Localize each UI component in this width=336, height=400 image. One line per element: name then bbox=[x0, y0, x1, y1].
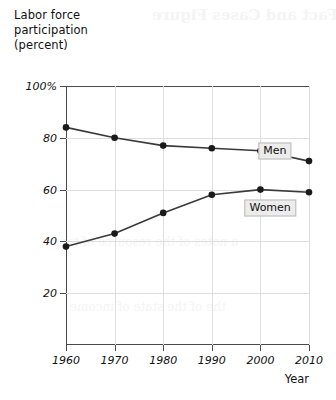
x-axis-tick-label: 1970 bbox=[101, 354, 129, 367]
data-point-men bbox=[209, 145, 216, 152]
x-axis-tick bbox=[260, 345, 261, 351]
data-point-women bbox=[209, 192, 216, 199]
x-axis-tick bbox=[309, 345, 310, 351]
y-axis-title: Labor force participation (percent) bbox=[14, 8, 88, 53]
data-point-men bbox=[63, 124, 70, 131]
y-axis-tick-label: 60 bbox=[43, 183, 57, 196]
x-axis-tick-label: 2000 bbox=[246, 354, 274, 367]
data-point-men bbox=[111, 135, 118, 142]
bleed-through-text-top: Program in Cases Fact and Cases Figure bbox=[152, 6, 336, 24]
x-axis-tick bbox=[163, 345, 164, 351]
x-axis-tick-label: 1960 bbox=[52, 354, 80, 367]
y-axis-title-line-2: participation bbox=[14, 23, 88, 38]
y-axis-tick-label: 20 bbox=[43, 287, 57, 300]
x-axis-title: Year bbox=[285, 372, 309, 386]
x-axis-tick-label: 2010 bbox=[295, 354, 323, 367]
series-label-women: Women bbox=[244, 199, 295, 216]
x-axis-tick bbox=[212, 345, 213, 351]
y-axis-title-line-1: Labor force bbox=[14, 8, 88, 23]
x-axis-tick bbox=[66, 345, 67, 351]
plot-area: Year 100%8060402019601970198019902000201… bbox=[66, 86, 309, 345]
y-axis-tick-label: 80 bbox=[43, 131, 57, 144]
gridline-vertical bbox=[309, 86, 310, 345]
y-axis-title-line-3: (percent) bbox=[14, 38, 88, 53]
data-point-women bbox=[63, 243, 70, 250]
y-axis-tick-label: 40 bbox=[43, 235, 57, 248]
data-point-women bbox=[111, 230, 118, 237]
series-line-women bbox=[66, 190, 309, 247]
x-axis-tick-label: 1980 bbox=[149, 354, 177, 367]
data-point-men bbox=[306, 158, 313, 165]
series-label-men: Men bbox=[258, 142, 291, 159]
y-axis-tick-label: 100% bbox=[26, 80, 57, 93]
data-point-women bbox=[257, 186, 264, 193]
x-axis-tick bbox=[115, 345, 116, 351]
x-axis-tick-label: 1990 bbox=[198, 354, 226, 367]
data-point-men bbox=[160, 142, 167, 149]
data-point-women bbox=[160, 210, 167, 217]
data-point-women bbox=[306, 189, 313, 196]
labor-force-participation-chart: Program in Cases Fact and Cases Figure a… bbox=[0, 0, 336, 400]
